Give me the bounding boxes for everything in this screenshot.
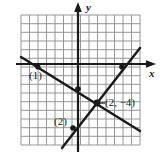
point-marker — [70, 125, 76, 131]
line-2-label: (2) — [54, 116, 67, 127]
x-axis-label: x — [149, 68, 155, 79]
point-marker — [75, 86, 81, 92]
intersection-point-label: (2, −4) — [105, 97, 135, 108]
point-marker — [119, 64, 125, 70]
line-1-label: (1) — [29, 70, 42, 81]
graph-figure: y x (1) (2) (2, −4) — [0, 0, 164, 157]
y-axis-label: y — [86, 2, 91, 13]
coordinate-plane-svg — [0, 0, 164, 157]
